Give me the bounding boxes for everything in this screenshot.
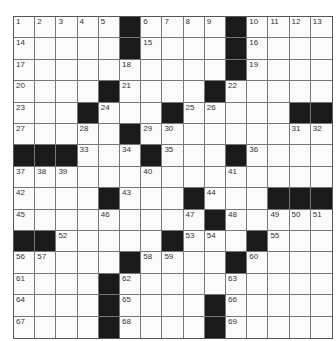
answer-cell[interactable] [268, 145, 289, 166]
answer-cell[interactable] [162, 60, 183, 81]
answer-cell[interactable] [311, 274, 332, 295]
answer-cell[interactable] [290, 252, 311, 273]
answer-cell[interactable] [78, 167, 99, 188]
answer-cell[interactable] [35, 188, 56, 209]
answer-cell[interactable] [56, 103, 77, 124]
answer-cell[interactable] [141, 231, 162, 252]
answer-cell[interactable]: 31 [290, 124, 311, 145]
answer-cell[interactable] [56, 60, 77, 81]
answer-cell[interactable]: 55 [268, 231, 289, 252]
answer-cell[interactable] [205, 167, 226, 188]
answer-cell[interactable] [56, 252, 77, 273]
answer-cell[interactable] [35, 81, 56, 102]
answer-cell[interactable] [247, 124, 268, 145]
answer-cell[interactable] [78, 295, 99, 316]
answer-cell[interactable] [35, 60, 56, 81]
answer-cell[interactable]: 7 [162, 17, 183, 38]
answer-cell[interactable] [184, 295, 205, 316]
answer-cell[interactable]: 25 [184, 103, 205, 124]
answer-cell[interactable]: 9 [205, 17, 226, 38]
answer-cell[interactable] [184, 38, 205, 59]
answer-cell[interactable] [99, 252, 120, 273]
answer-cell[interactable] [268, 38, 289, 59]
answer-cell[interactable] [268, 295, 289, 316]
answer-cell[interactable] [205, 60, 226, 81]
answer-cell[interactable] [35, 124, 56, 145]
answer-cell[interactable]: 59 [162, 252, 183, 273]
answer-cell[interactable]: 57 [35, 252, 56, 273]
answer-cell[interactable]: 38 [35, 167, 56, 188]
answer-cell[interactable] [247, 317, 268, 338]
answer-cell[interactable]: 39 [56, 167, 77, 188]
answer-cell[interactable]: 64 [14, 295, 35, 316]
answer-cell[interactable]: 36 [247, 145, 268, 166]
answer-cell[interactable] [184, 252, 205, 273]
answer-cell[interactable]: 49 [268, 210, 289, 231]
answer-cell[interactable]: 27 [14, 124, 35, 145]
answer-cell[interactable] [120, 167, 141, 188]
answer-cell[interactable] [226, 124, 247, 145]
answer-cell[interactable] [56, 81, 77, 102]
answer-cell[interactable] [141, 60, 162, 81]
answer-cell[interactable] [99, 145, 120, 166]
answer-cell[interactable] [56, 188, 77, 209]
answer-cell[interactable] [311, 145, 332, 166]
answer-cell[interactable] [56, 295, 77, 316]
answer-cell[interactable] [268, 60, 289, 81]
answer-cell[interactable] [141, 103, 162, 124]
answer-cell[interactable]: 19 [247, 60, 268, 81]
answer-cell[interactable] [162, 81, 183, 102]
answer-cell[interactable]: 40 [141, 167, 162, 188]
answer-cell[interactable] [99, 60, 120, 81]
answer-cell[interactable]: 6 [141, 17, 162, 38]
answer-cell[interactable]: 23 [14, 103, 35, 124]
answer-cell[interactable] [311, 231, 332, 252]
answer-cell[interactable]: 37 [14, 167, 35, 188]
answer-cell[interactable]: 44 [205, 188, 226, 209]
answer-cell[interactable]: 14 [14, 38, 35, 59]
answer-cell[interactable] [120, 210, 141, 231]
answer-cell[interactable]: 43 [120, 188, 141, 209]
answer-cell[interactable] [162, 188, 183, 209]
answer-cell[interactable]: 66 [226, 295, 247, 316]
answer-cell[interactable] [56, 210, 77, 231]
answer-cell[interactable] [184, 60, 205, 81]
answer-cell[interactable] [120, 103, 141, 124]
answer-cell[interactable] [162, 38, 183, 59]
answer-cell[interactable]: 60 [247, 252, 268, 273]
answer-cell[interactable]: 34 [120, 145, 141, 166]
answer-cell[interactable] [311, 167, 332, 188]
answer-cell[interactable]: 8 [184, 17, 205, 38]
answer-cell[interactable]: 50 [290, 210, 311, 231]
answer-cell[interactable]: 18 [120, 60, 141, 81]
answer-cell[interactable] [268, 124, 289, 145]
answer-cell[interactable]: 13 [311, 17, 332, 38]
answer-cell[interactable]: 61 [14, 274, 35, 295]
answer-cell[interactable]: 29 [141, 124, 162, 145]
answer-cell[interactable]: 69 [226, 317, 247, 338]
answer-cell[interactable] [78, 274, 99, 295]
answer-cell[interactable] [268, 274, 289, 295]
answer-cell[interactable] [99, 38, 120, 59]
answer-cell[interactable]: 41 [226, 167, 247, 188]
answer-cell[interactable]: 51 [311, 210, 332, 231]
answer-cell[interactable] [56, 38, 77, 59]
answer-cell[interactable] [205, 252, 226, 273]
answer-cell[interactable] [247, 103, 268, 124]
answer-cell[interactable] [290, 231, 311, 252]
answer-cell[interactable] [311, 81, 332, 102]
answer-cell[interactable] [268, 317, 289, 338]
answer-cell[interactable]: 20 [14, 81, 35, 102]
answer-cell[interactable] [141, 81, 162, 102]
answer-cell[interactable]: 47 [184, 210, 205, 231]
answer-cell[interactable]: 67 [14, 317, 35, 338]
answer-cell[interactable]: 33 [78, 145, 99, 166]
answer-cell[interactable] [120, 231, 141, 252]
answer-cell[interactable]: 21 [120, 81, 141, 102]
answer-cell[interactable] [311, 60, 332, 81]
answer-cell[interactable] [162, 295, 183, 316]
answer-cell[interactable] [226, 188, 247, 209]
answer-cell[interactable] [290, 81, 311, 102]
answer-cell[interactable]: 10 [247, 17, 268, 38]
answer-cell[interactable]: 56 [14, 252, 35, 273]
